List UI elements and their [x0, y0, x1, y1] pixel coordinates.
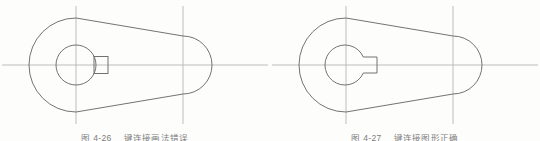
figure-left-caption-number: 图 4-26: [81, 133, 111, 141]
figure-right-drawing: [270, 0, 540, 130]
figure-right-caption-number: 图 4-27: [351, 133, 381, 141]
figure-left-drawing: [0, 0, 270, 130]
figure-left-caption: 图 4-26键连接画法错误: [0, 133, 270, 141]
figure-left-caption-text: 键连接画法错误: [124, 133, 189, 141]
figure-right-correct: 图 4-27键连接图形正确: [270, 0, 540, 141]
figure-right-caption: 图 4-27键连接图形正确: [270, 133, 540, 141]
figure-left-incorrect: 图 4-26键连接画法错误: [0, 0, 270, 141]
figure-right-caption-text: 键连接图形正确: [394, 133, 459, 141]
drawing-page: 图 4-26键连接画法错误 图 4-27键连接图形正确: [0, 0, 540, 141]
